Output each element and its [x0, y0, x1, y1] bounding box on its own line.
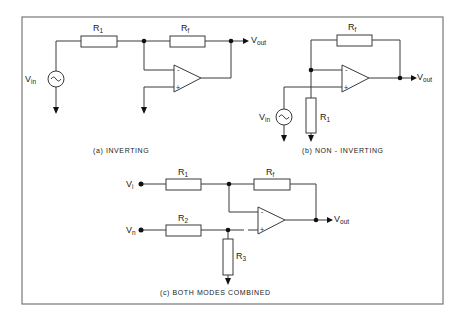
wire-a-noninv-ground	[144, 87, 174, 108]
label-vin: Vin	[25, 74, 36, 85]
label-r2: R2	[178, 213, 189, 224]
circuit-a-inverting: - + R1 Rf Vin Vout (a) INVERTING	[25, 23, 266, 155]
label-vout: Vout	[417, 72, 432, 83]
resistor-r1	[166, 179, 201, 190]
wire-a-input	[56, 41, 81, 71]
ground-arrow-icon	[53, 107, 59, 114]
terminal-dot	[139, 182, 144, 187]
junction-dot	[227, 182, 232, 187]
wire-c-rf-out	[290, 184, 316, 220]
label-vi: Vi	[126, 179, 133, 190]
label-vn: Vn	[126, 225, 136, 236]
terminal-dot	[139, 228, 144, 233]
op-amp-modes-diagram: - + R1 Rf Vin Vout (a) INVERTING - + Rf …	[0, 0, 462, 317]
caption-a: (a) INVERTING	[93, 147, 149, 155]
ground-arrow-icon	[141, 107, 147, 114]
resistor-r1	[81, 36, 117, 47]
ground-arrow-icon	[308, 135, 314, 142]
junction-dot	[142, 39, 147, 44]
label-rf: Rf	[266, 167, 275, 178]
output-arrow-icon	[327, 217, 333, 223]
junction-dot	[314, 218, 319, 223]
resistor-r2	[166, 225, 201, 236]
junction-dot	[309, 68, 314, 73]
label-r1: R1	[93, 23, 104, 34]
caption-c: (c) BOTH MODES COMBINED	[160, 289, 271, 297]
noninverting-sign: +	[176, 84, 180, 91]
label-vin: Vin	[259, 112, 270, 123]
resistor-r1	[306, 98, 316, 133]
circuit-b-noninverting: - + Rf R1 Vin Vout (b) NON - INVERTING	[259, 22, 432, 155]
label-vout: Vout	[334, 214, 349, 225]
circuit-c-combined: - + R1 Rf R2 R3 Vi Vn Vout (c) BOTH MODE…	[126, 167, 349, 297]
label-r1: R1	[178, 167, 189, 178]
label-r3: R3	[236, 251, 247, 262]
noninverting-sign: +	[344, 84, 348, 91]
label-rf: Rf	[181, 23, 190, 34]
wire-b-feedback-left	[311, 40, 337, 98]
noninverting-sign: +	[260, 226, 264, 233]
output-arrow-icon	[243, 38, 249, 44]
resistor-rf	[254, 179, 290, 190]
resistor-r3	[223, 239, 233, 275]
ground-arrow-icon	[281, 135, 287, 142]
junction-dot	[229, 39, 234, 44]
resistor-rf	[170, 36, 205, 47]
junction-dot	[226, 228, 231, 233]
label-rf: Rf	[348, 22, 357, 33]
ground-arrow-icon	[225, 278, 231, 285]
junction-dot	[398, 76, 403, 81]
caption-b: (b) NON - INVERTING	[302, 147, 384, 155]
wire-b-feedback-right	[372, 40, 400, 78]
resistor-rf	[337, 35, 372, 46]
label-vout: Vout	[251, 35, 266, 46]
label-r1: R1	[320, 112, 331, 123]
